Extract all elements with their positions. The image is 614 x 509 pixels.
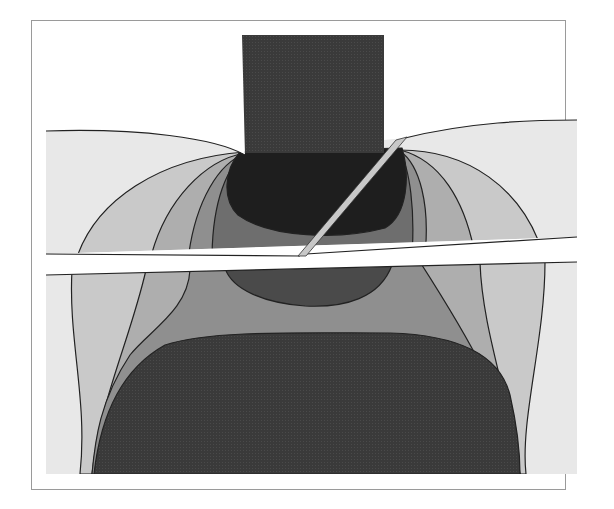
lower-dark-region: [94, 333, 520, 474]
contour-figure: [0, 0, 614, 509]
contour-plot: [0, 0, 614, 509]
lower-contour-zone: [40, 255, 585, 480]
loading-block: [242, 35, 384, 153]
upper-contour-zone: [40, 35, 585, 260]
